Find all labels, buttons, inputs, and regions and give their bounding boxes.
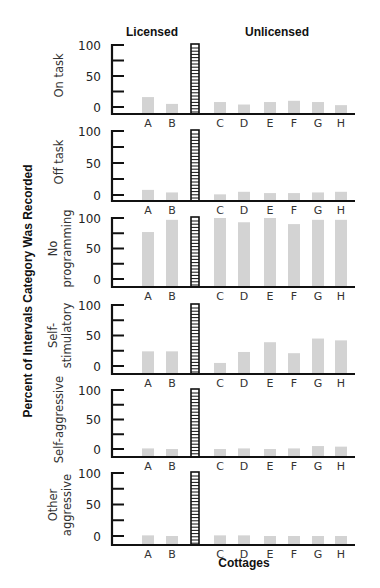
panel-on-task: 050100ABCDEFGHOn task [52, 39, 355, 131]
x-tick-label: C [216, 377, 224, 390]
group-label-licensed: Licensed [126, 25, 178, 39]
x-tick-label: A [144, 204, 152, 217]
panel-self-aggressive: 050100ABCDEFGHSelf-aggressive [52, 376, 355, 473]
y-tick-label: 50 [86, 413, 101, 427]
y-axis-title: Percent of Intervals Category Was Record… [21, 165, 35, 418]
x-tick-label: D [240, 117, 248, 130]
bar-F [288, 353, 300, 374]
bar-H [335, 340, 347, 374]
x-tick-label: H [337, 117, 345, 130]
y-tick-label: 50 [86, 329, 101, 343]
x-tick-label: G [314, 460, 323, 473]
bar-C [214, 449, 226, 457]
y-tick-label: 100 [78, 299, 101, 313]
panel-label: Noprogramming [46, 209, 74, 287]
x-tick-label: A [144, 117, 152, 130]
x-tick-label: C [216, 460, 224, 473]
x-tick-label: B [168, 204, 176, 217]
bar-F [288, 448, 300, 457]
bar-A [142, 232, 154, 287]
x-tick-label: B [168, 290, 176, 303]
x-tick-label: G [314, 117, 323, 130]
bar-D [238, 192, 250, 201]
bar-E [264, 193, 276, 201]
bar-E [264, 218, 276, 287]
bar-G [312, 446, 324, 457]
panel-label: Self-stimulatory [46, 303, 74, 369]
x-tick-label: D [240, 290, 248, 303]
panel-self-stimulatory: 050100ABCDEFGHSelf-stimulatory [46, 299, 355, 391]
chart: Licensed Unlicensed Percent of Intervals… [0, 0, 380, 588]
y-tick-label: 100 [78, 467, 101, 481]
x-tick-label: A [144, 377, 152, 390]
x-tick-label: B [168, 377, 176, 390]
bar-B [166, 449, 178, 457]
x-tick-label: H [337, 290, 345, 303]
x-tick-label: E [267, 204, 274, 217]
x-tick-label: F [291, 290, 297, 303]
y-tick-label: 100 [78, 125, 101, 139]
x-tick-label: B [168, 460, 176, 473]
x-tick-label: G [314, 548, 323, 561]
panel-no-programming: 050100ABCDEFGHNoprogramming [46, 209, 355, 303]
bar-D [238, 352, 250, 374]
bar-E [264, 102, 276, 114]
x-tick-label: F [291, 548, 297, 561]
y-tick-label: 100 [78, 39, 101, 53]
bar-A [142, 448, 154, 457]
bar-A [142, 535, 154, 545]
x-tick-label: F [291, 460, 297, 473]
bar-H [335, 447, 347, 457]
panel-off-task: 050100ABCDEFGHOff task [52, 125, 355, 218]
bar-C [214, 102, 226, 114]
bar-A [142, 97, 154, 114]
bar-G [312, 192, 324, 201]
x-tick-label: C [216, 204, 224, 217]
bar-F [288, 536, 300, 545]
bar-D [238, 448, 250, 457]
x-tick-label: F [291, 377, 297, 390]
x-tick-label: E [267, 548, 274, 561]
x-tick-label: F [291, 204, 297, 217]
y-tick-label: 100 [78, 212, 101, 226]
x-tick-label: D [240, 204, 248, 217]
y-tick-label: 0 [93, 189, 101, 203]
y-tick-label: 0 [93, 273, 101, 287]
bar-B [166, 220, 178, 287]
x-tick-label: C [216, 117, 224, 130]
bar-A [142, 190, 154, 201]
x-tick-label: E [267, 117, 274, 130]
bar-D [238, 535, 250, 545]
y-tick-label: 0 [93, 443, 101, 457]
x-tick-label: B [168, 117, 176, 130]
bar-A [142, 351, 154, 374]
x-tick-label: G [314, 204, 323, 217]
bar-E [264, 449, 276, 457]
x-tick-label: A [144, 290, 152, 303]
group-label-unlicensed: Unlicensed [245, 25, 309, 39]
x-tick-label: G [314, 377, 323, 390]
bar-G [312, 220, 324, 287]
x-tick-label: E [267, 290, 274, 303]
x-tick-label: E [267, 377, 274, 390]
panels: 050100ABCDEFGHOn task050100ABCDEFGHOff t… [46, 39, 355, 562]
bar-B [166, 536, 178, 545]
bar-B [166, 192, 178, 201]
x-tick-label: D [240, 377, 248, 390]
x-tick-label: B [168, 548, 176, 561]
panel-label: On task [52, 53, 66, 98]
bar-D [238, 105, 250, 114]
bar-G [312, 102, 324, 114]
bar-F [288, 224, 300, 287]
x-tick-label: H [337, 460, 345, 473]
bar-F [288, 101, 300, 114]
bar-H [335, 192, 347, 201]
x-tick-label: H [337, 204, 345, 217]
bar-C [214, 363, 226, 374]
y-tick-label: 50 [86, 242, 101, 256]
x-tick-label: H [337, 548, 345, 561]
x-tick-label: D [240, 460, 248, 473]
bar-B [166, 104, 178, 114]
x-tick-label: E [267, 460, 274, 473]
bar-H [335, 105, 347, 114]
